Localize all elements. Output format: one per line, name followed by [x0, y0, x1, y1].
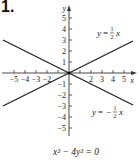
origin-point [67, 71, 70, 74]
equation-caption: x² − 4y² = 0 [52, 147, 99, 157]
svg-text:=: = [98, 107, 103, 117]
x-axis-label: x [129, 76, 134, 85]
svg-text:−5: −5 [57, 124, 66, 133]
svg-text:3: 3 [62, 36, 66, 45]
svg-text:4: 4 [111, 75, 115, 84]
svg-text:2: 2 [111, 34, 114, 40]
svg-text:5: 5 [62, 14, 66, 23]
label-y-half-x: y = 1 2 x [96, 26, 120, 40]
svg-text:−2: −2 [43, 75, 52, 84]
svg-text:−2: −2 [57, 91, 66, 100]
svg-text:4: 4 [62, 25, 66, 34]
svg-text:2: 2 [89, 75, 93, 84]
svg-text:y: y [91, 107, 96, 117]
svg-text:1: 1 [111, 26, 114, 32]
svg-text:3: 3 [100, 75, 104, 84]
svg-text:−4: −4 [21, 75, 30, 84]
svg-text:−4: −4 [57, 113, 66, 122]
svg-text:−: − [106, 107, 111, 117]
svg-text:−3: −3 [57, 102, 66, 111]
x-tick-labels: −5 −4 −3 −2 2 3 4 5 x [10, 75, 134, 85]
svg-text:2: 2 [114, 113, 117, 119]
svg-text:x: x [115, 28, 120, 38]
label-y-neg-half-x: y = − 1 2 x [91, 105, 123, 119]
svg-text:1: 1 [62, 58, 66, 67]
svg-text:1: 1 [114, 105, 117, 111]
svg-text:=: = [103, 28, 108, 38]
svg-text:y: y [96, 28, 101, 38]
y-axis-label: y [61, 4, 66, 13]
svg-text:−3: −3 [32, 75, 41, 84]
svg-text:2: 2 [62, 47, 66, 56]
y-axis [67, 5, 71, 136]
svg-text:5: 5 [122, 75, 126, 84]
svg-text:x: x [118, 107, 123, 117]
svg-text:−1: −1 [57, 80, 66, 89]
asymptote-graph: −5 −4 −3 −2 2 3 4 5 x 5 4 3 2 1 −1 −2 −3… [0, 0, 139, 160]
svg-text:−5: −5 [10, 75, 19, 84]
